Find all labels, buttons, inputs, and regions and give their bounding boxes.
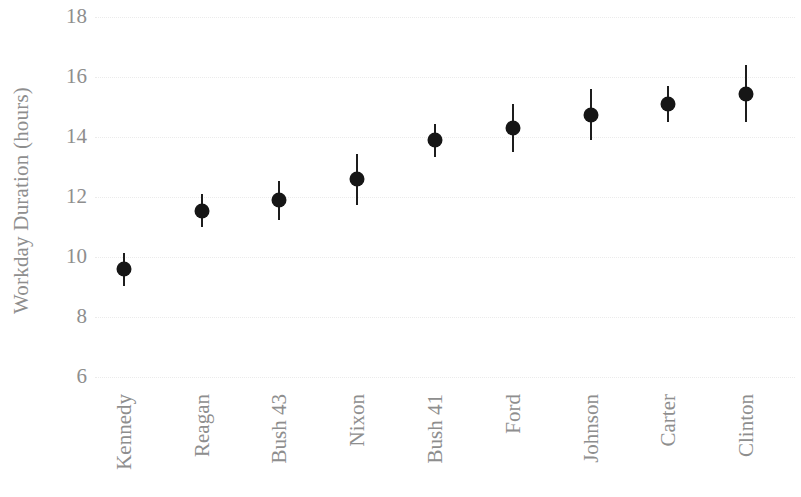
x-axis-tick-label-text: Ford [500, 394, 525, 434]
gridline [95, 317, 795, 319]
x-axis-tick-labels: KennedyReaganBush 43NixonBush 41FordJohn… [95, 390, 795, 497]
gridline [95, 377, 795, 379]
gridline [95, 137, 795, 139]
y-axis-tick-label: 8 [47, 306, 87, 327]
data-point [583, 107, 598, 122]
x-axis-tick-label-text: Reagan [189, 394, 214, 457]
plot-area [95, 0, 795, 390]
x-axis-tick-label-text: Kennedy [111, 394, 136, 470]
x-axis-tick-label: Johnson [576, 390, 606, 497]
gridline [95, 257, 795, 259]
y-axis-tick-label: 10 [47, 246, 87, 267]
y-axis-tick-label: 12 [47, 186, 87, 207]
x-axis-tick-label: Bush 43 [264, 390, 294, 497]
x-axis-tick-label: Reagan [187, 390, 217, 497]
x-axis-tick-label-text: Bush 43 [267, 394, 292, 463]
y-axis-title: Workday Duration (hours) [0, 0, 44, 400]
data-point [428, 133, 443, 148]
data-point [739, 86, 754, 101]
y-axis-tick-labels: 181614121086 [45, 0, 87, 390]
x-axis-tick-label-text: Bush 41 [423, 394, 448, 463]
x-axis-tick-label: Carter [653, 390, 683, 497]
data-point [661, 97, 676, 112]
gridline [95, 17, 795, 19]
x-axis-tick-label: Nixon [342, 390, 372, 497]
x-axis-tick-label: Clinton [731, 390, 761, 497]
x-axis-tick-label: Bush 41 [420, 390, 450, 497]
x-axis-tick-label-text: Carter [656, 394, 681, 446]
x-axis-tick-label-text: Clinton [734, 394, 759, 457]
y-axis-tick-label: 16 [47, 66, 87, 87]
y-axis-tick-label: 18 [47, 6, 87, 27]
y-axis-tick-label: 6 [47, 366, 87, 387]
chart-container: Workday Duration (hours) 181614121086 Ke… [0, 0, 801, 497]
y-axis-title-text: Workday Duration (hours) [10, 86, 35, 313]
data-point [272, 193, 287, 208]
data-point [116, 262, 131, 277]
data-point [505, 121, 520, 136]
x-axis-tick-label-text: Johnson [578, 394, 603, 463]
data-point [194, 203, 209, 218]
x-axis-tick-label: Kennedy [109, 390, 139, 497]
gridline [95, 77, 795, 79]
x-axis-tick-label-text: Nixon [345, 394, 370, 447]
data-point [350, 172, 365, 187]
x-axis-tick-label: Ford [498, 390, 528, 497]
y-axis-tick-label: 14 [47, 126, 87, 147]
